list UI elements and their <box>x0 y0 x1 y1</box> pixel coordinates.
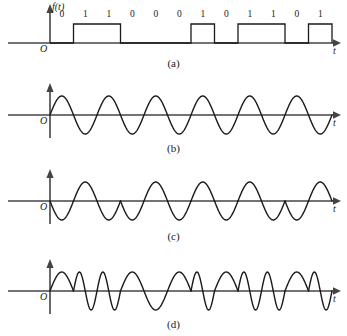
panel-b-origin-label: O <box>40 115 47 126</box>
bit-label: 0 <box>290 9 304 19</box>
bit-label: 0 <box>149 9 163 19</box>
bit-label: 1 <box>78 9 92 19</box>
panel-a-waveform <box>50 24 332 43</box>
panel-c-psk: O t (c) <box>0 168 347 250</box>
panel-c-caption: (c) <box>0 230 347 242</box>
panel-a-caption: (a) <box>0 57 347 69</box>
fsk-segment <box>285 272 309 291</box>
panel-d-fsk: O t (d) <box>0 258 347 336</box>
bit-label: 0 <box>219 9 233 19</box>
bit-label: 0 <box>55 9 69 19</box>
fsk-segment <box>215 272 239 291</box>
fsk-segment <box>50 272 74 291</box>
psk-segment <box>191 182 215 201</box>
panel-a-digital-signal: f(t) O t 0 1 1 0 0 0 1 0 1 1 0 1 (a) <box>0 0 347 72</box>
psk-segment <box>215 201 239 220</box>
panel-a-time-axis-label: t <box>333 45 336 56</box>
bit-label: 0 <box>125 9 139 19</box>
panel-a-origin-label: O <box>40 43 47 54</box>
bit-label: 1 <box>266 9 280 19</box>
psk-segment <box>309 182 333 201</box>
panel-d-time-axis-label: t <box>333 293 336 304</box>
bit-label: 1 <box>102 9 116 19</box>
panel-c-time-axis-label: t <box>333 203 336 214</box>
bit-label: 1 <box>243 9 257 19</box>
panel-c-origin-label: O <box>40 201 47 212</box>
psk-segment <box>285 201 309 220</box>
panel-d-caption: (d) <box>0 318 347 330</box>
bit-label: 1 <box>313 9 327 19</box>
panel-b-time-axis-label: t <box>333 117 336 128</box>
panel-d-axes <box>8 259 341 314</box>
panel-d-origin-label: O <box>40 291 47 302</box>
psk-segment <box>50 201 74 220</box>
modulation-figure: f(t) O t 0 1 1 0 0 0 1 0 1 1 0 1 (a) O t… <box>0 0 347 336</box>
bit-label: 1 <box>196 9 210 19</box>
panel-b-carrier: O t (b) <box>0 80 347 160</box>
panel-b-caption: (b) <box>0 142 347 154</box>
bit-label: 0 <box>172 9 186 19</box>
